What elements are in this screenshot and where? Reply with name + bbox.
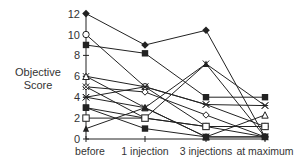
series-lines — [86, 14, 265, 137]
y-tick-label: 0 — [74, 133, 80, 145]
filled-triangle-icon — [83, 125, 89, 131]
open-square-icon — [142, 115, 148, 121]
open-diamond-icon — [142, 89, 148, 95]
x-tick-label: before — [75, 145, 105, 157]
x-tick-label: 1 injection — [121, 145, 168, 157]
filled-diamond-icon — [141, 41, 149, 49]
x-tick-label: 3 injections — [180, 145, 233, 157]
filled-square-icon — [83, 42, 89, 48]
x-axis-labels: before1 injection3 injectionsat maximum — [75, 145, 294, 157]
line-chart: 024681012 before1 injection3 injectionsa… — [0, 0, 300, 163]
open-square-icon — [203, 123, 209, 129]
x-tick-label: at maximum — [236, 145, 293, 157]
open-diamond-icon — [203, 112, 209, 118]
filled-square-icon — [262, 94, 268, 100]
y-tick-label: 6 — [74, 70, 80, 82]
y-tick-label: 10 — [68, 29, 80, 41]
filled-square-icon — [142, 125, 148, 131]
open-square-icon — [262, 123, 268, 129]
y-tick-label: 8 — [74, 49, 80, 61]
asterisk-icon — [203, 101, 209, 107]
y-tick-label: 4 — [74, 91, 80, 103]
open-triangle-icon — [262, 112, 268, 118]
open-square-icon — [83, 115, 89, 121]
filled-square-icon — [83, 104, 89, 110]
filled-diamond-icon — [82, 10, 90, 18]
filled-diamond-icon — [202, 27, 210, 35]
series-line — [86, 87, 265, 137]
filled-square-icon — [203, 134, 209, 140]
filled-square-icon — [142, 50, 148, 56]
open-circle-icon — [83, 31, 89, 37]
y-tick-label: 12 — [68, 8, 80, 20]
filled-square-icon — [203, 94, 209, 100]
y-tick-label: 2 — [74, 112, 80, 124]
